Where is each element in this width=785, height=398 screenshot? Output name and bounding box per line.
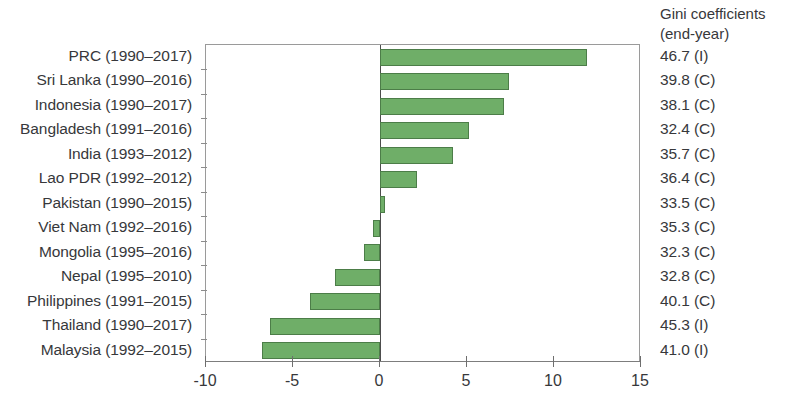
gini-value: 38.1 (C) — [660, 93, 715, 118]
gini-value: 36.4 (C) — [660, 166, 715, 191]
category-label: PRC (1990–2017) — [69, 44, 192, 69]
bar — [270, 318, 380, 335]
category-tick — [201, 69, 207, 70]
x-axis-tick — [205, 356, 206, 367]
category-label: Sri Lanka (1990–2016) — [36, 68, 192, 93]
bar — [373, 220, 380, 237]
x-axis-line — [205, 361, 640, 362]
gini-value: 35.7 (C) — [660, 142, 715, 167]
category-label: Bangladesh (1991–2016) — [20, 117, 192, 142]
category-tick — [201, 314, 207, 315]
gini-change-bar-chart: PRC (1990–2017)Sri Lanka (1990–2016)Indo… — [0, 0, 785, 398]
category-label: Pakistan (1990–2015) — [42, 191, 192, 216]
category-label: Mongolia (1995–2016) — [39, 240, 192, 265]
category-tick — [201, 94, 207, 95]
gini-header-line2: (end-year) — [660, 24, 785, 44]
bar — [380, 49, 587, 66]
bar — [380, 73, 509, 90]
category-tick — [201, 192, 207, 193]
category-label: Malaysia (1992–2015) — [41, 338, 192, 363]
bar — [335, 269, 380, 286]
category-label: Thailand (1990–2017) — [42, 313, 192, 338]
gini-value: 40.1 (C) — [660, 289, 715, 314]
x-axis-tick-label: 10 — [544, 372, 562, 390]
x-axis-tick-label: -10 — [193, 372, 216, 390]
bar — [380, 171, 417, 188]
category-label: Philippines (1991–2015) — [27, 289, 192, 314]
gini-column-values: 46.7 (I)39.8 (C)38.1 (C)32.4 (C)35.7 (C)… — [660, 44, 785, 362]
category-tick — [201, 216, 207, 217]
category-tick — [201, 118, 207, 119]
x-axis-tick — [379, 356, 380, 367]
category-tick — [201, 339, 207, 340]
bar — [380, 122, 469, 139]
bar — [380, 98, 504, 115]
category-label: India (1993–2012) — [68, 142, 192, 167]
category-tick — [201, 265, 207, 266]
bar — [380, 147, 453, 164]
bar — [310, 293, 380, 310]
category-label: Lao PDR (1992–2012) — [39, 166, 192, 191]
category-tick — [201, 167, 207, 168]
x-axis-tick — [640, 356, 641, 367]
gini-column-header: Gini coefficients (end-year) — [660, 4, 785, 44]
category-label: Nepal (1995–2010) — [61, 264, 192, 289]
x-axis-tick-label: -5 — [285, 372, 299, 390]
x-axis-tick — [466, 356, 467, 367]
gini-value: 46.7 (I) — [660, 44, 708, 69]
gini-value: 41.0 (I) — [660, 338, 708, 363]
category-axis-labels: PRC (1990–2017)Sri Lanka (1990–2016)Indo… — [0, 44, 198, 362]
category-tick — [201, 143, 207, 144]
category-tick — [201, 241, 207, 242]
bar — [262, 342, 380, 359]
bar — [364, 244, 380, 261]
x-axis-tick-label: 0 — [375, 372, 384, 390]
x-axis-tick — [292, 356, 293, 367]
gini-value: 39.8 (C) — [660, 68, 715, 93]
gini-value: 32.8 (C) — [660, 264, 715, 289]
gini-value: 32.3 (C) — [660, 240, 715, 265]
gini-header-line1: Gini coefficients — [660, 4, 785, 24]
gini-value: 32.4 (C) — [660, 117, 715, 142]
bar — [380, 196, 385, 213]
gini-value: 33.5 (C) — [660, 191, 715, 216]
category-tick — [201, 290, 207, 291]
x-axis-tick — [553, 356, 554, 367]
x-axis-tick-label: 5 — [462, 372, 471, 390]
x-axis-tick-label: 15 — [631, 372, 649, 390]
gini-value: 35.3 (C) — [660, 215, 715, 240]
gini-value: 45.3 (I) — [660, 313, 708, 338]
x-axis: -10-5051015 — [205, 361, 640, 397]
plot-area — [205, 44, 640, 362]
category-label: Viet Nam (1992–2016) — [38, 215, 192, 240]
category-label: Indonesia (1990–2017) — [35, 93, 192, 118]
